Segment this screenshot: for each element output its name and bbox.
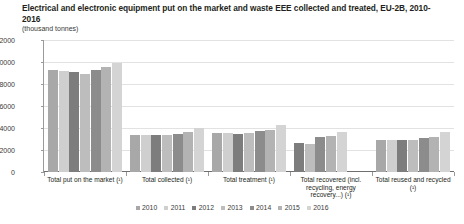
bar-group	[376, 40, 450, 172]
bar-2013	[305, 144, 315, 172]
legend-item-2015[interactable]: 2015	[278, 204, 300, 211]
y-axis-tick	[41, 62, 44, 63]
legend-item-2011[interactable]: 2011	[164, 204, 185, 211]
legend-swatch-icon	[307, 206, 311, 210]
legend-swatch-icon	[192, 206, 196, 210]
bar-2013	[244, 133, 254, 172]
chart-subtitle-unit: (thousand tonnes)	[22, 25, 78, 32]
bar-2014	[419, 138, 429, 172]
bar-2015	[265, 130, 275, 172]
legend-item-2012[interactable]: 2012	[192, 204, 214, 211]
bar-2013	[162, 135, 172, 172]
bar-2012	[233, 134, 243, 173]
chart-title: Electrical and electronic equipment put …	[22, 3, 442, 25]
y-axis-tick	[41, 150, 44, 151]
bar-2013	[408, 140, 418, 172]
legend-swatch-icon	[250, 206, 254, 210]
bar-2015	[183, 132, 193, 172]
x-axis-category-label: Total treatment (¹)	[208, 176, 290, 184]
bar-2014	[91, 70, 101, 172]
legend-swatch-icon	[278, 206, 282, 210]
legend-item-2014[interactable]: 2014	[250, 204, 272, 211]
bar-2011	[141, 135, 151, 172]
legend-label: 2015	[285, 204, 300, 211]
x-axis-category-label: Total put on the market (¹)	[44, 176, 126, 184]
bar-2016	[194, 128, 204, 172]
y-axis-label: 0	[0, 169, 15, 176]
bar-2016	[276, 125, 286, 172]
bar-2012	[397, 140, 407, 172]
y-axis-label: 2000	[0, 147, 15, 154]
legend-swatch-icon	[221, 206, 225, 210]
y-axis-tick	[41, 106, 44, 107]
legend-label: 2016	[313, 204, 328, 211]
legend-item-2010[interactable]: 2010	[136, 204, 158, 211]
bar-2016	[112, 63, 122, 172]
bar-2010	[376, 140, 386, 172]
bar-2016	[337, 132, 347, 172]
legend-label: 2013	[227, 204, 242, 211]
bar-group	[212, 40, 286, 172]
bar-2014	[315, 137, 325, 172]
x-axis-category-label: Total collected (¹)	[126, 176, 208, 184]
chart-legend: 2010201120122013201420152016	[0, 204, 464, 211]
bar-2015	[101, 67, 111, 172]
legend-label: 2012	[199, 204, 214, 211]
legend-label: 2011	[171, 204, 186, 211]
bar-2010	[212, 133, 222, 172]
bar-2012	[151, 135, 161, 172]
x-axis-tick	[454, 172, 455, 176]
chart-container: Electrical and electronic equipment put …	[0, 0, 464, 224]
y-axis-label: 8000	[0, 81, 15, 88]
bar-2010	[130, 135, 140, 172]
legend-label: 2014	[256, 204, 271, 211]
y-axis-tick	[41, 84, 44, 85]
plot-area	[44, 40, 454, 172]
bar-group	[130, 40, 204, 172]
bar-2015	[326, 136, 336, 172]
y-axis-label: 12000	[0, 37, 15, 44]
legend-item-2013[interactable]: 2013	[221, 204, 243, 211]
bar-2011	[59, 71, 69, 172]
bar-2013	[80, 74, 90, 172]
legend-swatch-icon	[136, 206, 140, 210]
bar-group	[294, 40, 368, 172]
bar-2012	[294, 143, 304, 172]
bar-2011	[387, 140, 397, 172]
bar-group	[48, 40, 122, 172]
bar-2016	[440, 132, 450, 172]
bar-2014	[173, 134, 183, 172]
legend-swatch-icon	[164, 206, 168, 210]
bar-2010	[48, 70, 58, 172]
legend-label: 2010	[142, 204, 157, 211]
y-axis-label: 10000	[0, 59, 15, 66]
y-axis-tick	[41, 128, 44, 129]
legend-item-2016[interactable]: 2016	[307, 204, 329, 211]
x-axis-category-label: Total reused and recycled (¹)	[372, 176, 454, 191]
bar-2012	[69, 72, 79, 172]
y-axis-tick	[41, 40, 44, 41]
bar-2011	[223, 133, 233, 172]
y-axis-label: 4000	[0, 125, 15, 132]
y-axis-label: 6000	[0, 103, 15, 110]
x-axis-category-label: Total recovered (incl. recycling, energy…	[290, 176, 372, 199]
bar-2015	[429, 137, 439, 172]
bar-2014	[255, 131, 265, 172]
